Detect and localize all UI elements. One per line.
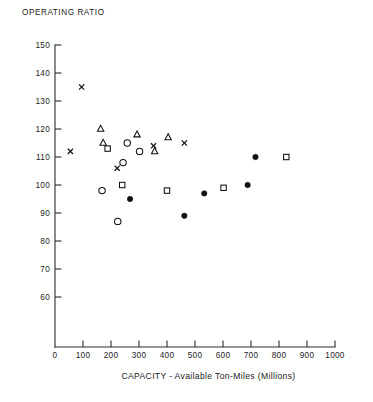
y-tick-label-110: 110 [36, 153, 50, 162]
x-tick-label-100: 100 [76, 351, 91, 360]
chart-canvas: 60708090100110120130140150 0100200300400… [0, 0, 373, 402]
data-point-triangle-1 [100, 139, 106, 145]
y-tick-label-60: 60 [40, 293, 50, 302]
y-tick-label-80: 80 [40, 237, 50, 246]
y-tick-label-140: 140 [35, 69, 50, 78]
x-axis-title: CAPACITY - Available Ton-Miles (Millions… [0, 371, 373, 381]
y-tick-label-130: 130 [35, 97, 50, 106]
data-point-triangle-3 [151, 148, 157, 154]
data-point-cross-3 [151, 143, 156, 148]
data-point-circle-filled-4 [253, 154, 258, 159]
x-axis: 01002003004005006007008009001000 [53, 341, 345, 361]
data-point-circle-filled-2 [202, 191, 207, 196]
x-tick-label-900: 900 [300, 351, 315, 360]
data-point-triangle-4 [165, 134, 171, 140]
x-tick-label-200: 200 [104, 351, 119, 360]
y-axis: 60708090100110120130140150 [35, 41, 61, 347]
data-point-square-4 [284, 154, 289, 159]
x-tick-label-500: 500 [188, 351, 203, 360]
data-point-circle-open-1 [136, 148, 142, 154]
x-tick-label-400: 400 [160, 351, 175, 360]
data-point-circle-filled-0 [127, 196, 132, 201]
data-point-square-2 [164, 188, 169, 193]
x-tick-label-800: 800 [272, 351, 287, 360]
data-point-square-1 [120, 182, 125, 187]
data-point-circle-filled-1 [182, 213, 187, 218]
x-tick-label-600: 600 [216, 351, 231, 360]
data-point-cross-0 [79, 84, 84, 89]
x-tick-label-0: 0 [53, 351, 58, 360]
data-point-cross-2 [115, 166, 120, 171]
scatter-chart: OPERATING RATIO 607080901001101201301401… [0, 0, 373, 402]
data-point-square-0 [105, 146, 110, 151]
y-tick-label-100: 100 [35, 181, 50, 190]
data-point-circle-open-4 [115, 218, 121, 224]
data-point-square-3 [221, 185, 226, 190]
data-point-circle-open-0 [124, 140, 130, 146]
data-point-circle-open-2 [120, 159, 126, 165]
x-tick-label-300: 300 [132, 351, 147, 360]
data-point-triangle-2 [134, 131, 140, 137]
data-point-circle-open-3 [99, 187, 105, 193]
data-point-cross-1 [68, 149, 73, 154]
data-point-cross-4 [182, 140, 187, 145]
y-tick-label-150: 150 [35, 41, 50, 50]
y-tick-label-120: 120 [35, 125, 50, 134]
x-tick-label-1000: 1000 [325, 351, 345, 360]
y-tick-label-70: 70 [40, 265, 50, 274]
data-points [68, 84, 289, 224]
y-tick-label-90: 90 [40, 209, 50, 218]
data-point-triangle-0 [97, 125, 103, 131]
x-tick-label-700: 700 [244, 351, 259, 360]
data-point-circle-filled-3 [245, 182, 250, 187]
